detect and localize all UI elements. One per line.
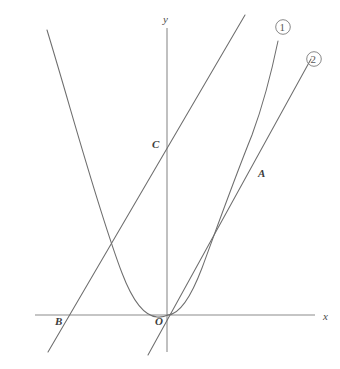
point-label-a: A	[258, 168, 265, 179]
y-axis-label: y	[163, 14, 168, 25]
point-label-o: O	[155, 316, 163, 327]
point-label-b: B	[55, 316, 62, 327]
point-label-c: C	[152, 139, 159, 150]
line-two	[148, 59, 311, 355]
geometry-figure: x y A B C O 1 2	[0, 0, 340, 369]
curve-one-number: 1	[280, 22, 286, 33]
left-parabola-curve	[47, 30, 168, 317]
line-bc	[48, 15, 245, 352]
x-axis-label: x	[323, 311, 328, 322]
figure-canvas	[0, 0, 340, 369]
curve-two-number: 2	[311, 54, 317, 65]
